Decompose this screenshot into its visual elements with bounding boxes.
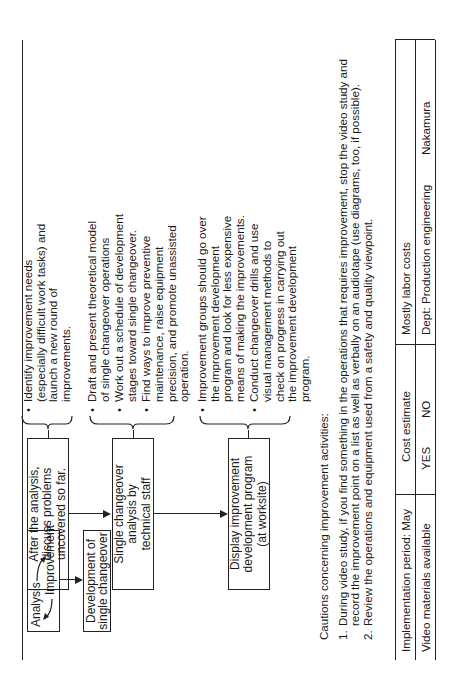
bullet-item: Conduct changeover drills and use visual… xyxy=(248,212,311,412)
table-bottom-border xyxy=(435,40,436,660)
connector-step1-to-step2 xyxy=(69,513,105,514)
step2-box: Single changeover analysis by technical … xyxy=(112,438,154,590)
bullet-item: Identify improvement needs (especially d… xyxy=(22,212,72,412)
cautions-section: Cautions concerning improvement activiti… xyxy=(318,40,374,640)
step2-line: analysis by xyxy=(126,484,140,543)
brace-step1-icon xyxy=(20,410,80,430)
step1-line: discuss problems xyxy=(41,468,55,561)
step1-line: uncovered so far. xyxy=(55,468,69,560)
costs-value: Mostly labor costs xyxy=(396,242,415,335)
bullet-item: Improvement groups should go over the im… xyxy=(196,212,246,412)
step3-line: Display improvement xyxy=(229,458,243,570)
development-box: Development of single changeover xyxy=(83,530,111,632)
caution-text: During video study, if you find somethin… xyxy=(336,59,362,626)
cautions-title: Cautions concerning improvement activiti… xyxy=(318,40,331,640)
caution-item: 2. Review the operations and equipment u… xyxy=(362,40,375,640)
stem-step3 xyxy=(248,430,249,438)
caution-item: 1. During video study, if you find somet… xyxy=(337,40,362,640)
step3-line: (at worksite) xyxy=(256,481,270,546)
bullet-item: Draft and present theoretical model of s… xyxy=(86,212,111,412)
step3-bullets: Improvement groups should go over the im… xyxy=(196,212,313,412)
caution-number: 2. xyxy=(362,630,375,640)
step2-line: technical staff xyxy=(140,477,154,550)
option-no: NO xyxy=(416,401,435,418)
table-divider-1 xyxy=(395,494,435,495)
video-materials: Video materials available xyxy=(416,523,435,652)
step2-line: Single changeover xyxy=(113,464,127,563)
arrowhead-icon xyxy=(103,510,111,518)
arrowhead-icon xyxy=(220,510,228,518)
stem-step2 xyxy=(133,430,134,438)
cautions-list: 1. During video study, if you find somet… xyxy=(337,40,375,640)
table-right-border xyxy=(395,39,435,40)
person-name: Nakamura xyxy=(416,102,435,155)
implementation-period: Implementation period: May xyxy=(396,509,415,652)
table-divider-2 xyxy=(395,344,435,345)
connector-step2-to-step3 xyxy=(154,513,221,514)
caution-text: Review the operations and equipment used… xyxy=(361,219,374,626)
step2-bullets: Draft and present theoretical model of s… xyxy=(86,212,193,412)
step1-bullets: Identify improvement needs (especially d… xyxy=(22,212,74,412)
caution-number: 1. xyxy=(337,630,350,640)
step1-box: After the analysis, discuss problems unc… xyxy=(27,438,69,590)
step1-line: After the analysis, xyxy=(28,466,42,561)
cost-estimate-label: Cost estimate xyxy=(396,391,415,462)
step3-box: Display improvement development program … xyxy=(228,438,270,590)
brace-step2-icon xyxy=(88,410,178,430)
brace-step3-icon xyxy=(198,410,294,430)
department: Dept: Production engineering xyxy=(416,185,435,335)
rotated-document-page: Analysis Improvement Development of sing… xyxy=(0,0,450,680)
arrowhead-icon xyxy=(75,576,83,584)
step3-line: development program xyxy=(242,456,256,573)
stem-step1 xyxy=(48,430,49,438)
bullet-item: Work out a schedule of development stage… xyxy=(113,212,138,412)
option-yes: YES xyxy=(416,447,435,470)
development-line2: single changeover xyxy=(97,532,110,629)
bullet-item: Find ways to improve preventive maintena… xyxy=(140,212,190,412)
